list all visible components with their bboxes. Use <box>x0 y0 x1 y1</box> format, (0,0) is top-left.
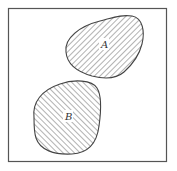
set-a-label: A <box>100 39 108 50</box>
set-b-label: B <box>64 111 72 122</box>
venn-diagram: A B <box>0 0 177 171</box>
